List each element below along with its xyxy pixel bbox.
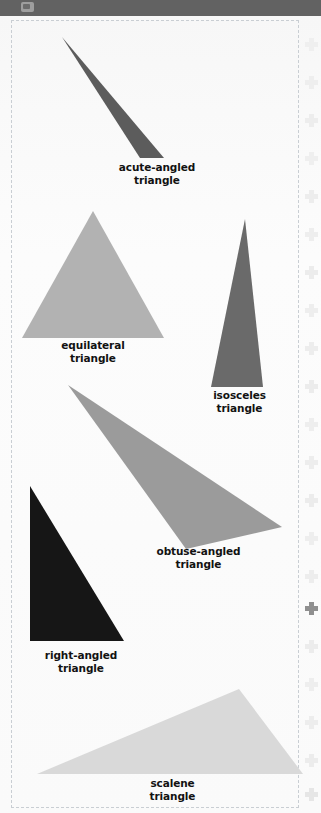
triangle-acute-angled <box>62 37 242 163</box>
window-titlebar <box>0 0 321 16</box>
plus-cross-icon <box>305 76 318 89</box>
worksheet-page: acute-angled triangleequilateral triangl… <box>0 16 321 813</box>
triangle-equilateral <box>22 211 167 341</box>
triangle-label-obtuse-angled: obtuse-angled triangle <box>131 545 266 570</box>
plus-cross-icon <box>305 532 318 545</box>
app-window-icon <box>21 2 34 12</box>
triangle-label-scalene: scalene triangle <box>110 777 235 802</box>
triangle-shape-isosceles <box>211 219 267 389</box>
triangle-shape-acute-angled <box>62 37 242 163</box>
plus-cross-icon <box>305 380 318 393</box>
plus-cross-icon <box>305 228 318 241</box>
plus-cross-icon <box>305 754 318 767</box>
plus-cross-icon <box>305 152 318 165</box>
plus-cross-icon <box>305 494 318 507</box>
triangle-polygon <box>211 219 263 387</box>
plus-cross-icon <box>305 38 318 51</box>
plus-cross-icon <box>305 640 318 653</box>
triangle-polygon <box>30 486 124 641</box>
triangle-polygon <box>37 689 303 774</box>
triangle-label-equilateral: equilateral triangle <box>28 339 158 364</box>
plus-cross-icon <box>305 304 318 317</box>
plus-cross-icon <box>305 602 318 615</box>
plus-cross-icon <box>305 342 318 355</box>
plus-cross-icon <box>305 456 318 469</box>
plus-cross-icon <box>305 716 318 729</box>
plus-cross-icon <box>305 788 318 801</box>
triangle-label-right-angled: right-angled triangle <box>16 649 146 674</box>
triangle-polygon <box>22 211 164 338</box>
triangle-label-acute-angled: acute-angled triangle <box>92 161 222 186</box>
plus-cross-icon <box>305 266 318 279</box>
plus-cross-icon <box>305 190 318 203</box>
triangle-right-angled <box>30 486 126 643</box>
triangle-shape-equilateral <box>22 211 167 341</box>
plus-cross-icon <box>305 418 318 431</box>
page-root: acute-angled triangleequilateral triangl… <box>0 0 321 813</box>
plus-cross-icon <box>305 570 318 583</box>
triangle-isosceles <box>211 219 267 389</box>
triangle-shape-right-angled <box>30 486 126 643</box>
plus-cross-icon <box>305 114 318 127</box>
triangle-shape-scalene <box>37 689 305 776</box>
plus-cross-icon <box>305 678 318 691</box>
triangle-scalene <box>37 689 305 776</box>
triangle-polygon <box>62 37 164 158</box>
